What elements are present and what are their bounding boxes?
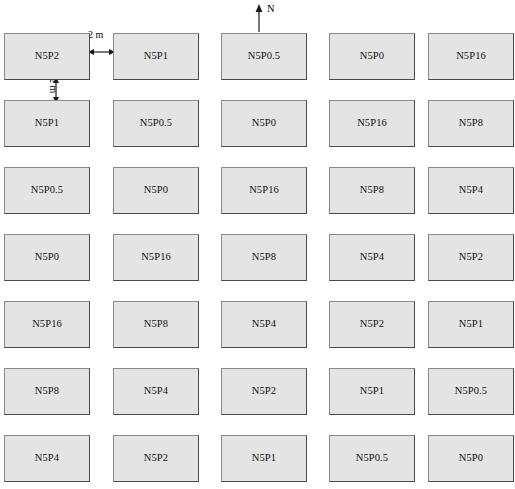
plot-label: N5P2 bbox=[459, 252, 483, 263]
plot-cell[interactable]: N5P1 bbox=[4, 100, 90, 147]
plot-label: N5P16 bbox=[456, 51, 486, 62]
plot-cell[interactable]: N5P2 bbox=[113, 435, 199, 482]
plot-cell[interactable]: N5P2 bbox=[329, 301, 415, 348]
plot-cell[interactable]: N5P8 bbox=[113, 301, 199, 348]
plot-label: N5P1 bbox=[459, 319, 483, 330]
plot-label: N5P16 bbox=[141, 252, 171, 263]
plot-label: N5P0.5 bbox=[248, 51, 280, 62]
plot-cell[interactable]: N5P4 bbox=[4, 435, 90, 482]
horizontal-gap-label: 2 m bbox=[88, 30, 103, 40]
plot-label: N5P0.5 bbox=[140, 118, 172, 129]
plot-cell[interactable]: N5P0 bbox=[113, 167, 199, 214]
plot-label: N5P0.5 bbox=[356, 453, 388, 464]
plot-label: N5P2 bbox=[144, 453, 168, 464]
plot-label: N5P16 bbox=[249, 185, 279, 196]
plot-label: N5P1 bbox=[252, 453, 276, 464]
plot-cell[interactable]: N5P4 bbox=[428, 167, 514, 214]
plot-label: N5P8 bbox=[144, 319, 168, 330]
plot-cell[interactable]: N5P16 bbox=[113, 234, 199, 281]
plot-label: N5P4 bbox=[360, 252, 384, 263]
plot-cell[interactable]: N5P4 bbox=[221, 301, 307, 348]
plot-label: N5P0 bbox=[252, 118, 276, 129]
plot-label: N5P1 bbox=[360, 386, 384, 397]
plot-cell[interactable]: N5P1 bbox=[113, 33, 199, 80]
plot-label: N5P0 bbox=[144, 185, 168, 196]
double-headed-horizontal-arrow-icon bbox=[88, 44, 115, 60]
north-label: N bbox=[267, 4, 275, 15]
plot-label: N5P8 bbox=[35, 386, 59, 397]
plot-label: N5P1 bbox=[35, 118, 59, 129]
plot-cell[interactable]: N5P0.5 bbox=[329, 435, 415, 482]
plot-cell[interactable]: N5P8 bbox=[428, 100, 514, 147]
plot-cell[interactable]: N5P4 bbox=[329, 234, 415, 281]
plot-cell[interactable]: N5P1 bbox=[428, 301, 514, 348]
plot-label: N5P2 bbox=[252, 386, 276, 397]
plot-cell[interactable]: N5P2 bbox=[4, 33, 90, 80]
plot-cell[interactable]: N5P0.5 bbox=[221, 33, 307, 80]
plot-cell[interactable]: N5P2 bbox=[221, 368, 307, 415]
plot-cell[interactable]: N5P8 bbox=[221, 234, 307, 281]
plot-label: N5P4 bbox=[144, 386, 168, 397]
plot-cell[interactable]: N5P0.5 bbox=[4, 167, 90, 214]
plot-label: N5P2 bbox=[360, 319, 384, 330]
plot-label: N5P0.5 bbox=[455, 386, 487, 397]
plot-cell[interactable]: N5P8 bbox=[329, 167, 415, 214]
plot-label: N5P8 bbox=[360, 185, 384, 196]
plot-label: N5P2 bbox=[35, 51, 59, 62]
plot-label: N5P0 bbox=[459, 453, 483, 464]
plot-label: N5P8 bbox=[252, 252, 276, 263]
plot-cell[interactable]: N5P0 bbox=[428, 435, 514, 482]
plot-cell[interactable]: N5P0.5 bbox=[113, 100, 199, 147]
plot-label: N5P4 bbox=[35, 453, 59, 464]
plot-label: N5P16 bbox=[32, 319, 62, 330]
plot-cell[interactable]: N5P1 bbox=[329, 368, 415, 415]
plot-label: N5P4 bbox=[252, 319, 276, 330]
plot-label: N5P8 bbox=[459, 118, 483, 129]
plot-label: N5P0.5 bbox=[31, 185, 63, 196]
plot-cell[interactable]: N5P0.5 bbox=[428, 368, 514, 415]
plot-label: N5P0 bbox=[35, 252, 59, 263]
plot-label: N5P0 bbox=[360, 51, 384, 62]
plot-cell[interactable]: N5P0 bbox=[329, 33, 415, 80]
plot-cell[interactable]: N5P2 bbox=[428, 234, 514, 281]
plot-cell[interactable]: N5P16 bbox=[221, 167, 307, 214]
plot-cell[interactable]: N5P1 bbox=[221, 435, 307, 482]
plot-cell[interactable]: N5P0 bbox=[221, 100, 307, 147]
plot-cell[interactable]: N5P0 bbox=[4, 234, 90, 281]
plot-label: N5P16 bbox=[357, 118, 387, 129]
plot-label: N5P4 bbox=[459, 185, 483, 196]
experimental-plot-layout-figure: N 2 m 2 m N5P2N5P1N5P0.5N5P0N5P16N5P1N5P… bbox=[0, 0, 515, 489]
plot-cell[interactable]: N5P4 bbox=[113, 368, 199, 415]
plot-cell[interactable]: N5P16 bbox=[428, 33, 514, 80]
plot-label: N5P1 bbox=[144, 51, 168, 62]
plot-cell[interactable]: N5P16 bbox=[329, 100, 415, 147]
plot-cell[interactable]: N5P8 bbox=[4, 368, 90, 415]
plot-cell[interactable]: N5P16 bbox=[4, 301, 90, 348]
